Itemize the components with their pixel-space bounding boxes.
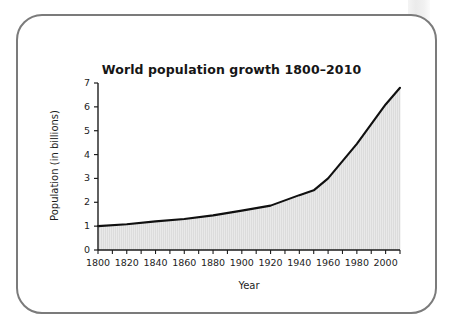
y-tick-label: 1 — [76, 220, 90, 231]
y-tick-label: 5 — [76, 125, 90, 136]
y-tick-label: 4 — [76, 149, 90, 160]
y-axis-title: Population (in billions) — [49, 96, 60, 236]
y-tick-label: 2 — [76, 196, 90, 207]
y-tick-label: 0 — [76, 244, 90, 255]
population-growth-chart: World population growth 1800–2010 Popula… — [0, 0, 463, 329]
y-tick-label: 6 — [76, 101, 90, 112]
x-axis-title: Year — [98, 280, 400, 291]
area-fill — [98, 88, 400, 250]
x-tick-label: 2000 — [369, 257, 403, 268]
y-tick-label: 7 — [76, 77, 90, 88]
y-tick-label: 3 — [76, 172, 90, 183]
